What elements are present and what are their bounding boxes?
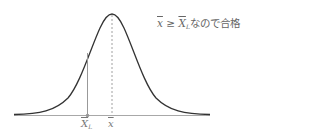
lower-limit-point [86,114,90,118]
pass-condition-annotation: x ≥ XLなので合格 [157,15,240,30]
mean-label: x [108,118,114,129]
geq-operator: ≥ [166,17,175,29]
lower-limit-label: XL [81,118,92,130]
lower-limit-label-sub: L [88,123,92,130]
annotation-suffix: なので合格 [190,17,240,29]
sample-mean-symbol: x [157,17,163,29]
lower-limit-symbol: X [178,17,185,29]
mean-label-text: x [108,118,114,129]
